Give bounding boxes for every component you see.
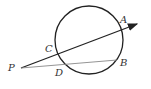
secant-diagram: P A B C D (0, 0, 151, 89)
label-d: D (54, 67, 63, 78)
label-p: P (7, 62, 15, 73)
circle (55, 6, 123, 74)
label-c: C (45, 43, 53, 54)
label-a: A (119, 14, 127, 25)
label-b: B (119, 57, 127, 68)
